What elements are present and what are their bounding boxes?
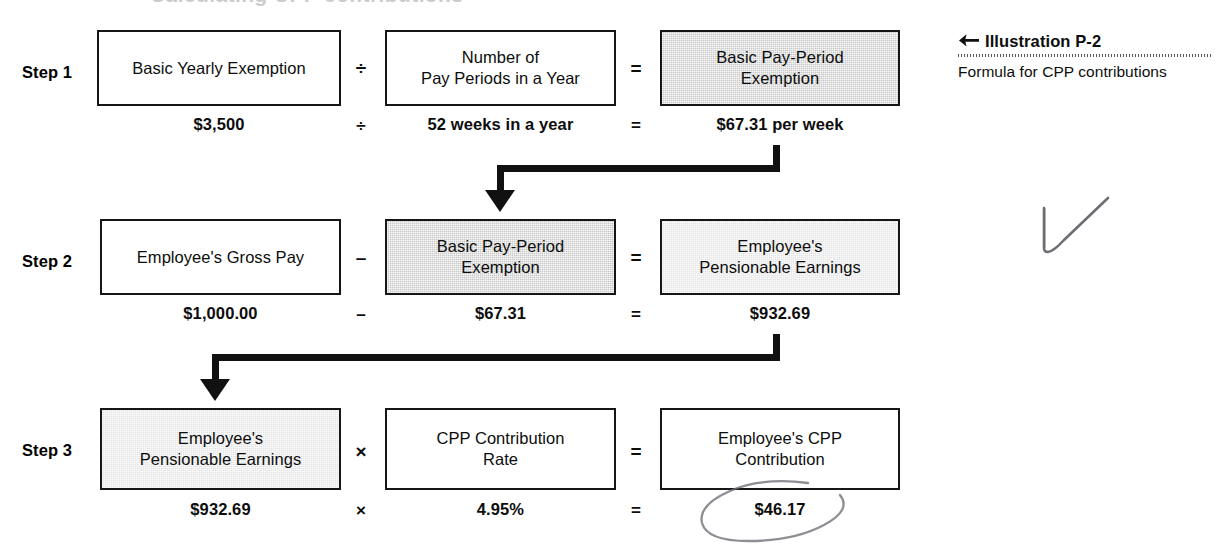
step1-box-1-label: Basic Yearly Exemption [126,58,312,79]
illustration-divider [958,54,1211,57]
step3-box-3: Employee's CPP Contribution [660,408,900,490]
step1-value-1: $3,500 [97,115,341,134]
illustration-subtitle: Formula for CPP contributions [958,63,1211,81]
step1-box-1: Basic Yearly Exemption [97,30,341,106]
step2-value-operator-1: – [348,305,374,325]
step2-value-operator-2: = [623,305,649,325]
step-label-1: Step 1 [22,63,72,82]
step1-operator-2: = [623,58,649,80]
step1-box-2-label: Number of Pay Periods in a Year [415,47,586,89]
step3-box-3-label: Employee's CPP Contribution [712,428,848,470]
illustration-caption: Illustration P-2 Formula for CPP contrib… [958,32,1211,81]
step1-box-3-label: Basic Pay-Period Exemption [710,47,849,89]
step3-operator-1: × [348,441,374,463]
pencil-checkmark-annotation [1030,190,1130,284]
step2-value-3: $932.69 [660,304,900,323]
step-label-2: Step 2 [22,252,72,271]
step3-box-1-label: Employee's Pensionable Earnings [134,428,308,470]
step3-value-1: $932.69 [100,500,341,519]
cut-off-heading-sliver: Calculating CPP contributions [0,0,1229,10]
step3-box-2: CPP Contribution Rate [385,408,616,490]
step3-value-2: 4.95% [385,500,616,519]
step1-value-3: $67.31 per week [660,115,900,134]
cut-off-heading-text: Calculating CPP contributions [150,0,463,7]
step1-value-operator-2: = [623,116,649,136]
illustration-title: Illustration P-2 [985,32,1101,50]
step2-value-1: $1,000.00 [100,304,341,323]
step-label-3: Step 3 [22,441,72,460]
step2-box-2-label: Basic Pay-Period Exemption [431,236,570,278]
step2-box-2: Basic Pay-Period Exemption [385,219,616,295]
illustration-title-row: Illustration P-2 [958,32,1211,52]
diagram-canvas: Calculating CPP contributions Step 1 Bas… [0,0,1229,547]
step2-operator-2: = [623,247,649,269]
step2-box-1: Employee's Gross Pay [100,219,341,295]
step3-box-2-label: CPP Contribution Rate [431,428,571,470]
step2-box-3-label: Employee's Pensionable Earnings [693,236,867,278]
step3-box-1: Employee's Pensionable Earnings [100,408,341,490]
step1-value-2: 52 weeks in a year [385,115,616,134]
step1-box-3: Basic Pay-Period Exemption [660,30,900,106]
step1-box-2: Number of Pay Periods in a Year [385,30,616,106]
left-arrow-icon [958,33,980,52]
step3-value-operator-1: × [348,501,374,521]
step1-value-operator-1: ÷ [348,116,374,136]
step2-value-2: $67.31 [385,304,616,323]
step2-box-1-label: Employee's Gross Pay [131,247,310,268]
step3-value-operator-2: = [623,501,649,521]
step1-operator-1: ÷ [348,58,374,80]
step2-operator-1: – [348,247,374,269]
step3-value-3: $46.17 [660,500,900,519]
step3-operator-2: = [623,441,649,463]
step2-box-3: Employee's Pensionable Earnings [660,219,900,295]
